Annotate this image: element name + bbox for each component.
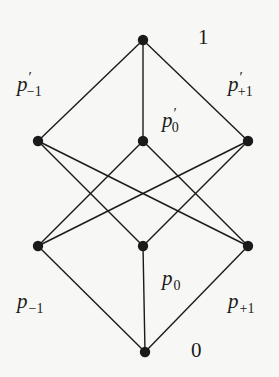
label-base: p <box>228 72 239 96</box>
label-sub: 0 <box>174 278 181 293</box>
label-base: p <box>17 72 28 96</box>
node-ll <box>33 241 43 251</box>
node-top <box>138 35 148 45</box>
node-lc <box>138 241 148 251</box>
label-p-prime-minus-1: p′−1 <box>17 74 42 95</box>
label-sub: +1 <box>240 301 255 316</box>
label-base: p <box>228 289 239 313</box>
label-sup: ′ <box>174 105 177 121</box>
node-lr <box>243 241 253 251</box>
node-mc <box>138 136 148 146</box>
label-text: 0 <box>191 338 202 362</box>
label-bottom-0: 0 <box>191 340 202 361</box>
label-top-1: 1 <box>198 27 209 48</box>
node-bot <box>140 347 150 357</box>
label-p-prime-plus-1: p′+1 <box>228 74 253 95</box>
label-sub: 0 <box>172 120 179 135</box>
label-sup: ′ <box>29 69 32 85</box>
edge-ll-bot <box>38 246 145 352</box>
edges-group <box>38 40 248 352</box>
label-p-0: p0 <box>162 268 181 289</box>
label-text: 1 <box>198 25 209 49</box>
label-base: p <box>162 108 173 132</box>
label-sup: ′ <box>240 69 243 85</box>
label-base: p <box>162 266 173 290</box>
label-p-prime-0: p′0 <box>162 110 179 131</box>
label-p-minus-1: p−1 <box>17 291 43 312</box>
label-p-plus-1: p+1 <box>228 291 254 312</box>
label-sub: +1 <box>238 84 253 99</box>
edge-lc-bot <box>143 246 145 352</box>
lattice-diagram <box>0 0 279 377</box>
node-ml <box>33 136 43 146</box>
node-mr <box>243 136 253 146</box>
label-sub: −1 <box>27 84 42 99</box>
edge-top-ml <box>38 40 143 141</box>
label-sub: −1 <box>29 301 44 316</box>
label-base: p <box>17 289 28 313</box>
